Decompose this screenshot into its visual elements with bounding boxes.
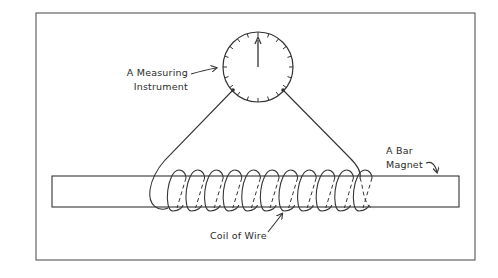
- wire-lead-right: [283, 90, 360, 178]
- coil-loop-back: [344, 178, 353, 208]
- coil-loop-top: [309, 170, 316, 178]
- label-magnet-line2: Magnet: [386, 158, 423, 172]
- coil-loop-back: [233, 178, 242, 208]
- coil-loop-top: [272, 170, 279, 178]
- coil-lead-start: [150, 190, 168, 209]
- label-instrument-line1: A Measuring: [110, 66, 188, 80]
- coil-loop-top: [253, 170, 260, 178]
- coil-loop-back: [214, 178, 223, 208]
- magnet-arrow: [426, 162, 437, 172]
- coil-loop-back: [251, 178, 260, 208]
- coil-loop-top: [235, 170, 242, 178]
- label-instrument: A Measuring Instrument: [110, 66, 188, 94]
- coil-loop-top: [346, 170, 353, 178]
- coil-loop-back: [326, 178, 335, 208]
- coil-loop-top: [328, 170, 335, 178]
- bar-magnet: [52, 176, 459, 207]
- measuring-instrument: [223, 32, 293, 102]
- coil-arrow: [268, 214, 282, 232]
- label-magnet-line1: A Bar: [386, 144, 423, 158]
- coil-loop-top: [365, 170, 372, 178]
- label-coil: Coil of Wire: [210, 229, 267, 243]
- coil-loop-top: [291, 170, 298, 178]
- coil-loop-back: [270, 178, 279, 208]
- coil-loop-top: [216, 170, 223, 178]
- label-magnet: A Bar Magnet: [386, 144, 423, 172]
- diagram-canvas: A Measuring Instrument A Bar Magnet Coil…: [0, 0, 498, 278]
- instrument-arrow: [191, 68, 216, 74]
- coil-loop-back: [177, 178, 186, 208]
- label-instrument-line2: Instrument: [110, 80, 188, 94]
- coil-loop-back: [289, 178, 298, 208]
- coil-lead-end: [360, 178, 374, 209]
- coil-loop-top: [179, 170, 186, 178]
- coil-loop-back: [196, 178, 205, 208]
- coil-loop-back: [307, 178, 316, 208]
- label-coil-text: Coil of Wire: [210, 230, 267, 241]
- coil-loop-back: [363, 178, 372, 208]
- coil-loop-top: [198, 170, 205, 178]
